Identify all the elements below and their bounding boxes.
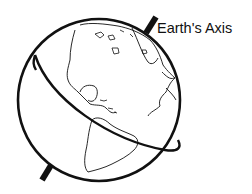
axis-top-stub — [146, 17, 156, 33]
globe-outline — [18, 19, 180, 181]
earths-axis-label: Earth's Axis — [157, 20, 232, 36]
